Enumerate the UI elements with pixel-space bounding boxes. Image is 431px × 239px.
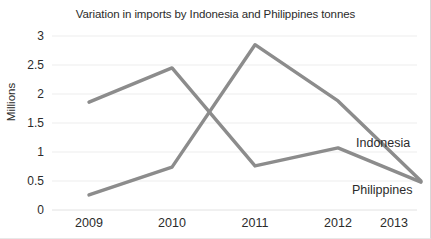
series-line-indonesia bbox=[89, 68, 421, 182]
series-line-philippines bbox=[89, 45, 421, 195]
series-label-indonesia: Indonesia bbox=[356, 136, 410, 150]
x-tick-label-2011: 2011 bbox=[232, 216, 278, 230]
x-tick-label-2012: 2012 bbox=[315, 216, 361, 230]
plot-area bbox=[0, 0, 431, 239]
line-chart: Variation in imports by Indonesia and Ph… bbox=[0, 0, 431, 239]
series-label-philippines: Philippines bbox=[352, 183, 412, 197]
x-tick-label-2013: 2013 bbox=[371, 216, 417, 230]
x-tick-label-2009: 2009 bbox=[66, 216, 112, 230]
x-tick-label-2010: 2010 bbox=[149, 216, 195, 230]
